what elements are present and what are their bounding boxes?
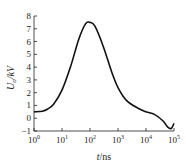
x-tick-label: 105 xyxy=(168,134,180,145)
x-tick-label: 102 xyxy=(84,134,96,145)
y-tick-label: 8 xyxy=(27,11,32,21)
x-tick-label: 100 xyxy=(28,134,40,145)
chart: −1012345678 100101102103104105 Uo/kV t/n… xyxy=(0,0,186,167)
x-axis-label: t/ns xyxy=(97,151,112,162)
y-tick-label: 5 xyxy=(27,49,32,59)
y-tick-label: 3 xyxy=(27,75,32,85)
y-tick-label: 0 xyxy=(27,113,32,123)
y-tick-label: 1 xyxy=(27,100,32,110)
y-tick-label: 6 xyxy=(27,37,32,47)
y-ticks: −1012345678 xyxy=(21,11,37,136)
x-tick-label: 103 xyxy=(112,134,124,145)
x-ticks: 100101102103104105 xyxy=(28,128,180,145)
y-tick-label: 4 xyxy=(27,62,32,72)
x-tick-label: 104 xyxy=(140,134,152,145)
y-axis-label: Uo/kV xyxy=(5,64,18,90)
y-tick-label: 2 xyxy=(27,88,32,98)
data-line xyxy=(34,22,174,129)
x-tick-label: 101 xyxy=(56,134,68,145)
y-tick-label: 7 xyxy=(27,24,32,34)
